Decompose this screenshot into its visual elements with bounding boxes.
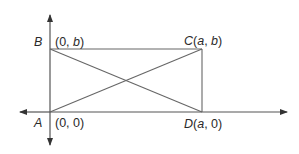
label-a-coords: (0, 0) [55,116,84,130]
label-d: D(a, 0) [184,117,222,131]
label-b-coords: (0, b) [55,35,84,49]
label-c: C(a, b) [184,34,222,48]
label-b: B [34,35,42,49]
label-a: A [33,116,42,130]
rectangle-diagram: B (0, b) A (0, 0) C(a, b) D(a, 0) [0,0,299,154]
